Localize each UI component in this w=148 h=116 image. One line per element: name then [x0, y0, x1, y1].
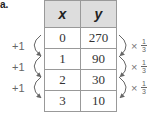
right-arrow-icon [119, 77, 126, 97]
left-arrow-icon [34, 35, 41, 55]
right-arrow-icon [119, 35, 126, 55]
times-symbol: × [131, 82, 137, 94]
left-arrow-icon [34, 77, 41, 97]
times-symbol: × [131, 61, 137, 73]
plus-one-label: +1 [12, 61, 25, 73]
plus-one-label: +1 [12, 40, 25, 52]
fraction-one-third: 1 3 [141, 38, 147, 53]
right-arrow-icon [119, 56, 126, 76]
times-symbol: × [131, 40, 137, 52]
plus-one-label: +1 [12, 82, 25, 94]
fraction-one-third: 1 3 [141, 59, 147, 74]
left-arrow-icon [34, 56, 41, 76]
curved-arrows [0, 0, 148, 116]
fraction-one-third: 1 3 [141, 80, 147, 95]
